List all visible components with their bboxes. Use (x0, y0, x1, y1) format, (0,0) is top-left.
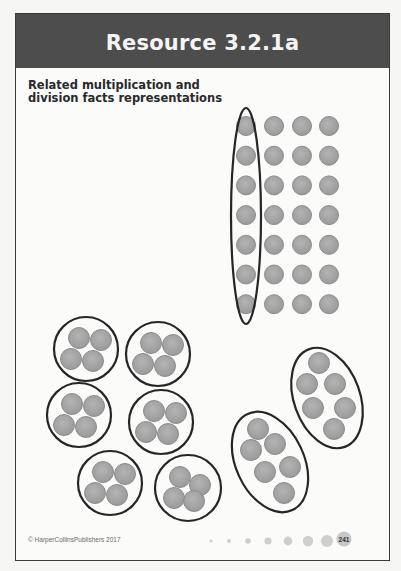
counter (163, 335, 184, 356)
counter (265, 434, 286, 455)
counter (136, 422, 157, 443)
counter (76, 417, 97, 438)
counter (248, 419, 269, 440)
counter (83, 351, 104, 372)
counter (320, 295, 339, 314)
group-of-four (129, 390, 193, 454)
counter (320, 146, 339, 165)
counter (320, 235, 339, 254)
counter (85, 483, 106, 504)
group-outline (78, 451, 142, 515)
groups-of-four (47, 317, 221, 521)
counter (324, 419, 345, 440)
counter (164, 488, 185, 509)
counter (158, 424, 179, 445)
counter (265, 235, 284, 254)
counter (166, 403, 187, 424)
counter (237, 146, 256, 165)
counter (84, 396, 105, 417)
counter (265, 295, 284, 314)
counter (293, 206, 312, 225)
counter (320, 176, 339, 195)
counter (265, 206, 284, 225)
group-of-six (278, 338, 376, 458)
group-of-four (126, 322, 190, 386)
group-outline (126, 322, 190, 386)
group-of-four (78, 451, 142, 515)
counter (303, 398, 324, 419)
counter (293, 235, 312, 254)
counter (265, 176, 284, 195)
counter (255, 462, 276, 483)
group-outline (155, 455, 221, 521)
counter (141, 333, 162, 354)
page-number: 241 (335, 536, 353, 543)
counter (107, 485, 128, 506)
counter (91, 330, 112, 351)
counter (62, 394, 83, 415)
counter (320, 206, 339, 225)
counter (69, 328, 90, 349)
counter (237, 265, 256, 284)
counter (241, 440, 262, 461)
counter (320, 265, 339, 284)
counter (325, 374, 346, 395)
counter (237, 206, 256, 225)
group-outline (47, 383, 111, 447)
counter (237, 176, 256, 195)
counters-illustration (0, 0, 401, 571)
counter (61, 349, 82, 370)
group-outline (217, 400, 323, 525)
counter (274, 483, 295, 504)
counter (115, 464, 136, 485)
counter (265, 265, 284, 284)
counter (93, 462, 114, 483)
array-7-by-4 (237, 117, 339, 314)
groups-of-six (217, 338, 376, 525)
counter (297, 374, 318, 395)
footer-dot (303, 536, 313, 546)
counter (309, 353, 330, 374)
group-outline (54, 317, 118, 381)
group-of-four (54, 317, 118, 381)
footer-dot (227, 539, 231, 543)
counter (320, 117, 339, 136)
resource-page: Resource 3.2.1a Related multiplication a… (0, 0, 401, 571)
footer-dot (321, 535, 333, 547)
counter (293, 265, 312, 284)
counter (293, 146, 312, 165)
group-outline (129, 390, 193, 454)
counter (293, 295, 312, 314)
group-of-four (47, 383, 111, 447)
counter (293, 117, 312, 136)
group-of-six (217, 400, 323, 525)
counter (184, 491, 205, 512)
counter (54, 415, 75, 436)
counter (237, 235, 256, 254)
footer-dot (209, 539, 212, 542)
copyright-text: © HarperCollinsPublishers 2017 (28, 536, 121, 543)
footer-dot (284, 537, 293, 546)
footer-dot (245, 538, 251, 544)
counter (133, 354, 154, 375)
counter (265, 146, 284, 165)
counter (265, 117, 284, 136)
footer-dot (264, 537, 271, 544)
counter (280, 457, 301, 478)
footer-decorative-dots (209, 532, 351, 548)
group-of-four (155, 455, 221, 521)
counter (170, 467, 191, 488)
counter (335, 398, 356, 419)
counter (144, 401, 165, 422)
counter (293, 176, 312, 195)
counter (155, 356, 176, 377)
